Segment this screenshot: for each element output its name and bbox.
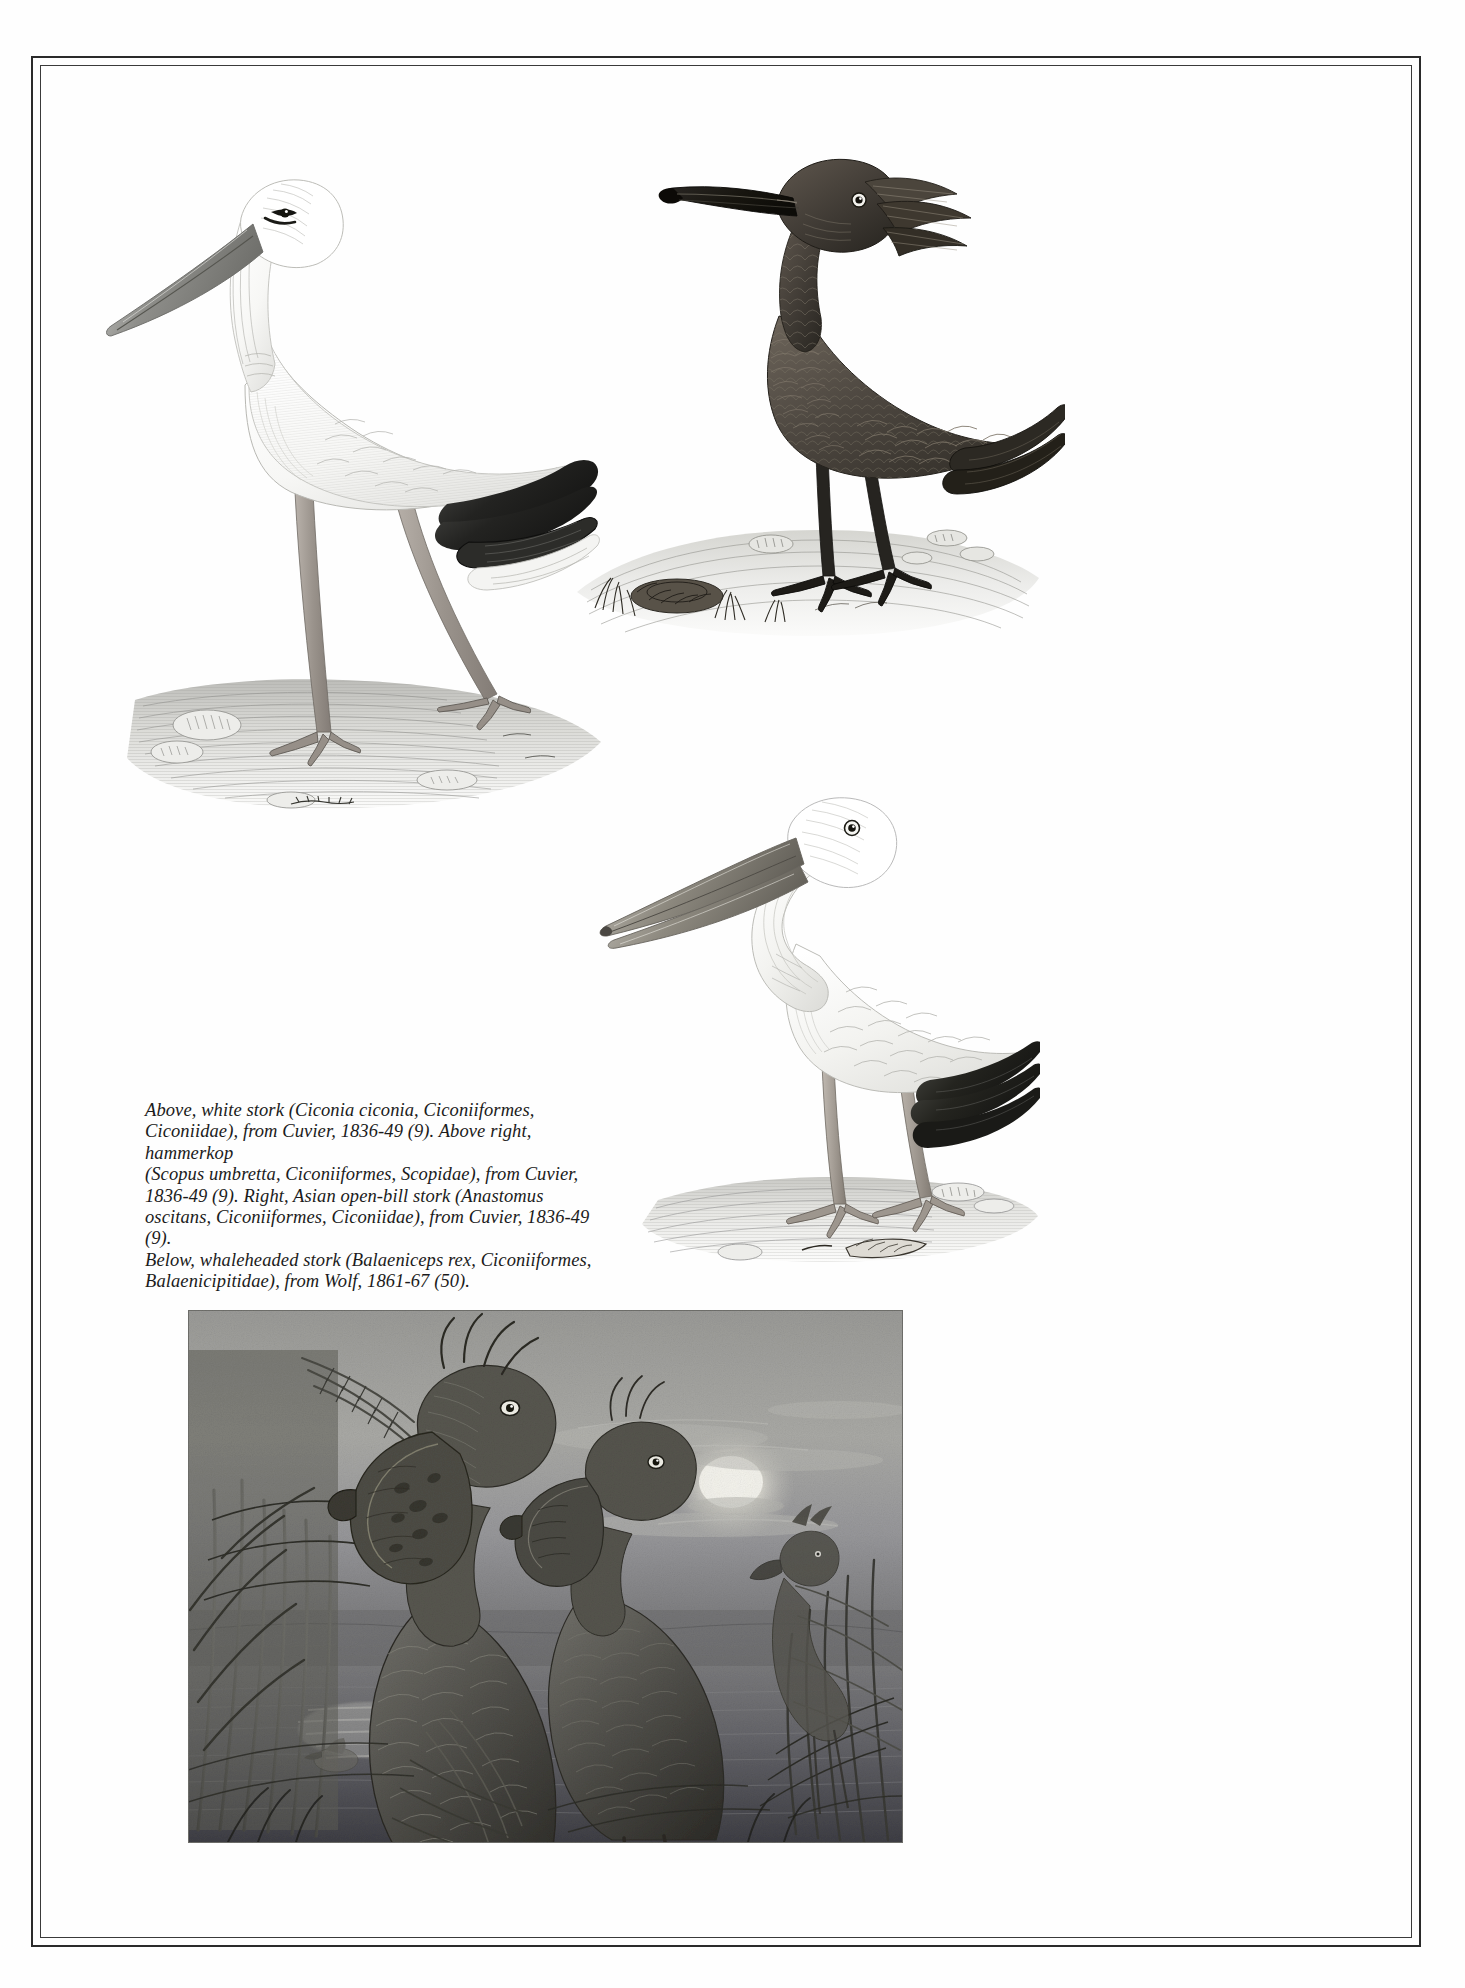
figure-asian-open-bill-stork: [580, 780, 1040, 1300]
caption-line: Ciconiidae), from Cuvier, 1836-49 (9). A…: [145, 1121, 595, 1164]
eye: [501, 1401, 520, 1416]
nest-bundle: [631, 579, 723, 613]
bill: [659, 187, 799, 216]
figure-caption: Above, white stork (Ciconia ciconia, Cic…: [145, 1100, 595, 1293]
caption-line: Above, white stork (Ciconia ciconia, Cic…: [145, 1100, 595, 1121]
ground-hatching: [127, 679, 601, 808]
figure-whaleheaded-stork-plate: [188, 1310, 903, 1843]
caption-line: oscitans, Ciconiiformes, Ciconiidae), fr…: [145, 1207, 595, 1250]
caption-line: 1836-49 (9). Right, Asian open-bill stor…: [145, 1186, 595, 1207]
caption-line: Balaenicipitidae), from Wolf, 1861-67 (5…: [145, 1271, 595, 1292]
figure-white-stork: [95, 140, 625, 910]
figure-hammerkop: [565, 140, 1065, 660]
eye: [852, 193, 866, 207]
book-page: Above, white stork (Ciconia ciconia, Cic…: [0, 0, 1465, 1988]
white-stork-body: [245, 346, 565, 510]
eye: [845, 821, 860, 836]
caption-line: (Scopus umbretta, Ciconiiformes, Scopida…: [145, 1164, 595, 1185]
caption-line: Below, whaleheaded stork (Balaeniceps re…: [145, 1250, 595, 1271]
head: [778, 159, 971, 256]
eye: [648, 1456, 664, 1469]
